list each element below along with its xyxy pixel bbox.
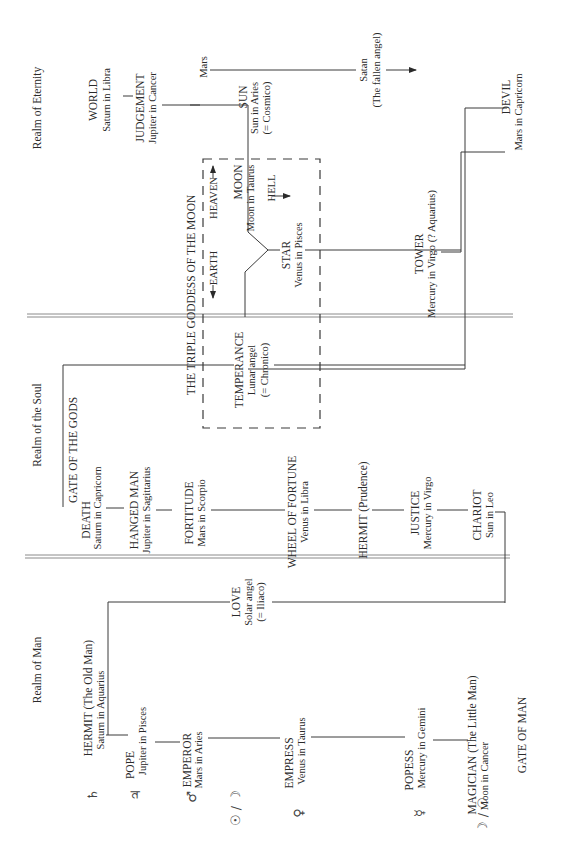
saturn-icon: ♄	[85, 789, 100, 801]
card-emperor: EMPEROR Mars in Aries	[181, 731, 204, 788]
realm-man-label: Realm of Man	[31, 637, 43, 704]
hell-label: HELL	[266, 175, 277, 202]
mars-icon: ♂	[184, 791, 199, 803]
svg-text:Saturn in Capricorn: Saturn in Capricorn	[92, 466, 103, 550]
svg-text:DEATH: DEATH	[80, 501, 92, 539]
card-wheel-of-fortune: WHEEL OF FORTUNE Venus in Libra	[286, 456, 310, 569]
svg-text:Sun in Aries: Sun in Aries	[249, 82, 260, 134]
gate-of-gods-label: GATE OF THE GODS	[67, 397, 79, 503]
svg-text:HANGED MAN: HANGED MAN	[128, 470, 140, 549]
card-pope: POPE Jupiter in Pisces	[124, 707, 148, 779]
svg-text:(= Iliaco): (= Iliaco)	[255, 582, 267, 622]
svg-text:Moon in Taurus: Moon in Taurus	[245, 165, 256, 232]
realm-eternity-label: Realm of Eternity	[31, 67, 44, 150]
card-empress: EMPRESS Venus in Taurus	[283, 717, 307, 788]
card-judgement: JUDGEMENT Jupiter in Cancer	[134, 72, 158, 144]
temperance-fork	[245, 250, 268, 317]
moon-sun-icon: ☽ / ☉	[475, 797, 490, 833]
svg-text:Jupiter in Cancer: Jupiter in Cancer	[147, 72, 158, 144]
svg-text:Mercury in Virgo: Mercury in Virgo	[422, 476, 433, 549]
devil-connector	[248, 108, 507, 369]
card-chariot: CHARIOT Sun in Leo	[471, 489, 495, 540]
svg-text:Solar angel: Solar angel	[243, 578, 254, 626]
svg-text:DEVIL: DEVIL	[500, 80, 512, 115]
card-justice: JUSTICE Mercury in Virgo	[409, 476, 433, 549]
tower-connector	[441, 152, 461, 252]
svg-text:LOVE: LOVE	[230, 587, 242, 618]
svg-text:FORTITUDE: FORTITUDE	[183, 481, 195, 544]
card-sun: SUN Sun in Aries (= Cosmico)	[237, 81, 273, 134]
card-moon: MOON Moon in Taurus	[232, 164, 256, 232]
svg-text:Jupiter in Sagittarius: Jupiter in Sagittarius	[141, 467, 152, 554]
card-devil: DEVIL Mars in Capricorn	[500, 73, 524, 151]
realm-soul-label: Realm of the Soul	[31, 383, 43, 466]
svg-text:Saturn in Libra: Saturn in Libra	[101, 68, 112, 132]
svg-text:TEMPERANCE: TEMPERANCE	[233, 332, 245, 409]
sun-moon-icon: ☉ / ☽	[228, 790, 243, 826]
tarot-diagram: Realm of Eternity Realm of the Soul Real…	[0, 0, 561, 852]
svg-text:Jupiter in Pisces: Jupiter in Pisces	[137, 707, 148, 775]
svg-text:Mercury in Gemini: Mercury in Gemini	[416, 707, 427, 788]
svg-text:Venus in Pisces: Venus in Pisces	[293, 222, 304, 287]
card-temperance: TEMPERANCE Lunar angel (= Chronico)	[233, 332, 271, 409]
svg-text:STAR: STAR	[280, 240, 292, 269]
card-hermit-old-man: HERMIT (The Old Man) Saturn in Aquarius	[82, 640, 106, 757]
card-world: WORLD Saturn in Libra	[87, 68, 112, 132]
svg-text:MAGICIAN (The Little Man): MAGICIAN (The Little Man)	[466, 675, 479, 814]
svg-text:EMPEROR: EMPEROR	[181, 733, 193, 788]
svg-text:Mars in Capricorn: Mars in Capricorn	[513, 73, 524, 151]
heaven-label: HEAVEN	[208, 177, 219, 219]
svg-text:TOWER: TOWER	[413, 233, 425, 274]
svg-text:POPE: POPE	[124, 751, 136, 779]
svg-text:(= Chronico): (= Chronico)	[259, 342, 271, 397]
card-love: LOVE Solar angel (= Iliaco)	[230, 578, 267, 626]
mercury-icon: ☿	[412, 809, 427, 817]
svg-text:CHARIOT: CHARIOT	[471, 489, 483, 540]
svg-text:Satan: Satan	[358, 58, 369, 82]
svg-text:JUDGEMENT: JUDGEMENT	[134, 74, 146, 143]
svg-text:EMPRESS: EMPRESS	[283, 737, 295, 788]
svg-text:MOON: MOON	[232, 164, 244, 200]
svg-text:WORLD: WORLD	[87, 79, 99, 121]
svg-text:Venus in Libra: Venus in Libra	[299, 481, 310, 543]
svg-text:JUSTICE: JUSTICE	[409, 491, 421, 536]
svg-text:Saturn in Aquarius: Saturn in Aquarius	[95, 671, 106, 750]
svg-text:Sun in Leo: Sun in Leo	[484, 492, 495, 538]
svg-text:Venus in Taurus: Venus in Taurus	[296, 717, 307, 784]
card-tower: TOWER Mercury in Virgo (? Aquarius)	[413, 190, 438, 318]
hermit-love-connector	[108, 602, 230, 735]
card-fortitude: FORTITUDE Mars in Scorpio	[183, 479, 207, 547]
card-satan: Satan (The fallen angel)	[358, 32, 383, 108]
svg-text:Mercury in Virgo (? Aquarius): Mercury in Virgo (? Aquarius)	[426, 190, 438, 318]
realm-divider-soul-man	[25, 555, 510, 558]
mars-label: Mars	[198, 56, 209, 78]
svg-text:Lunar angel: Lunar angel	[246, 345, 257, 396]
earth-label: EARTH	[208, 250, 219, 285]
svg-text:(The fallen angel): (The fallen angel)	[371, 32, 383, 108]
card-popess: POPESS Mercury in Gemini	[403, 707, 427, 790]
svg-text:POPESS: POPESS	[403, 750, 415, 791]
venus-icon: ♀	[291, 808, 306, 818]
card-star: STAR Venus in Pisces	[280, 222, 304, 287]
svg-text:(= Cosmico): (= Cosmico)	[261, 81, 273, 134]
svg-text:Mars in Aries: Mars in Aries	[193, 731, 204, 788]
card-hermit-prudence: HERMIT (Prudence)	[357, 461, 370, 558]
jupiter-icon: ♃	[128, 789, 143, 801]
svg-text:HERMIT (The Old Man): HERMIT (The Old Man)	[82, 640, 95, 757]
card-magician: MAGICIAN (The Little Man) Moon in Cancer	[466, 675, 490, 814]
moon-fork	[248, 230, 268, 250]
svg-text:WHEEL OF FORTUNE: WHEEL OF FORTUNE	[286, 456, 298, 569]
realm-divider-eternity-soul	[27, 314, 513, 317]
card-hanged-man: HANGED MAN Jupiter in Sagittarius	[128, 467, 152, 554]
card-death: DEATH Saturn in Capricorn	[80, 466, 103, 550]
svg-text:Mars in Scorpio: Mars in Scorpio	[196, 479, 207, 547]
gate-of-man-label: GATE OF MAN	[516, 696, 528, 773]
